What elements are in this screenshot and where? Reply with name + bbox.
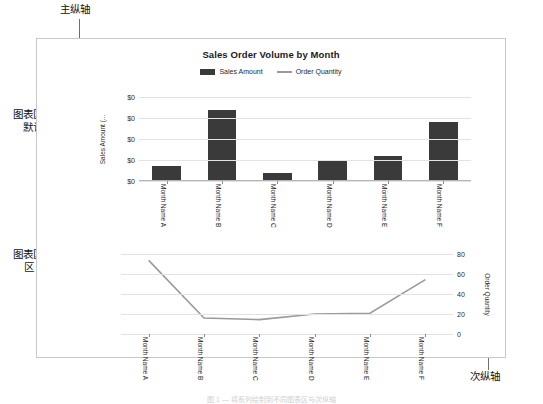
annotation-primary-axis: 主纵轴 bbox=[60, 3, 90, 16]
bar-gridline bbox=[139, 139, 471, 140]
chart-frame: Sales Order Volume by Month Sales Amount… bbox=[36, 38, 506, 358]
secondary-y-tick-label: 0 bbox=[457, 331, 461, 338]
x-axis-tick-cell: Month Name F bbox=[398, 334, 453, 364]
legend-item-order-quantity: Order Quantity bbox=[277, 68, 342, 75]
order-quantity-line[interactable] bbox=[149, 260, 426, 319]
legend-line-swatch-icon bbox=[277, 71, 292, 73]
primary-y-axis-title: Sales Amount (... bbox=[97, 97, 109, 181]
legend-label-sales-amount: Sales Amount bbox=[219, 68, 262, 75]
x-axis-label: Month Name C bbox=[252, 337, 259, 381]
x-axis-label: Month Name A bbox=[160, 184, 167, 227]
bar-month-name-f[interactable] bbox=[429, 122, 458, 181]
x-axis-label: Month Name C bbox=[270, 184, 277, 228]
annotation-secondary-axis: 次纵轴 bbox=[470, 370, 500, 383]
x-axis-label: Month Name D bbox=[326, 184, 333, 228]
x-axis-tick-cell: Month Name C bbox=[250, 181, 305, 207]
x-axis-tick bbox=[259, 334, 260, 337]
x-axis-label: Month Name F bbox=[418, 337, 425, 380]
bar-gridline bbox=[139, 118, 471, 119]
figure-caption: 图 1 — 将系列绘制到不同图表区与次纵轴 bbox=[0, 394, 543, 404]
x-axis-label: Month Name B bbox=[197, 337, 204, 380]
primary-y-tick-label: $0 bbox=[127, 94, 135, 101]
bar-month-name-d[interactable] bbox=[318, 161, 347, 181]
line-gridline bbox=[121, 274, 453, 275]
bar-month-name-b[interactable] bbox=[208, 110, 237, 181]
legend-bar-swatch-icon bbox=[200, 69, 215, 75]
x-axis-label: Month Name E bbox=[363, 337, 370, 380]
primary-y-tick-label: $0 bbox=[127, 157, 135, 164]
x-axis-tick bbox=[443, 181, 444, 184]
legend-label-order-quantity: Order Quantity bbox=[296, 68, 342, 75]
line-gridline bbox=[121, 314, 453, 315]
bar-x-axis-labels: Month Name AMonth Name BMonth Name CMont… bbox=[139, 181, 471, 207]
bar-plot-area: $0$0$0$0$0 bbox=[139, 97, 471, 181]
x-axis-tick-cell: Month Name E bbox=[342, 334, 397, 364]
line-gridline bbox=[121, 294, 453, 295]
x-axis-tick-cell: Month Name A bbox=[121, 334, 176, 364]
secondary-y-tick-label: 20 bbox=[457, 311, 465, 318]
x-axis-tick-cell: Month Name B bbox=[176, 334, 231, 364]
x-axis-label: Month Name D bbox=[308, 337, 315, 381]
x-axis-label: Month Name B bbox=[215, 184, 222, 227]
bar-gridline bbox=[139, 160, 471, 161]
x-axis-label: Month Name E bbox=[381, 184, 388, 227]
x-axis-label: Month Name A bbox=[142, 337, 149, 380]
bar-month-name-a[interactable] bbox=[152, 166, 181, 181]
x-axis-tick-cell: Month Name D bbox=[305, 181, 360, 207]
x-axis-tick bbox=[425, 334, 426, 337]
x-axis-tick-cell: Month Name F bbox=[416, 181, 471, 207]
x-axis-tick bbox=[204, 334, 205, 337]
primary-y-tick-label: $0 bbox=[127, 115, 135, 122]
secondary-y-tick-label: 60 bbox=[457, 271, 465, 278]
x-axis-tick-cell: Month Name E bbox=[360, 181, 415, 207]
x-axis-tick-cell: Month Name C bbox=[232, 334, 287, 364]
chart-area-default: Sales Amount (... $0$0$0$0$0 Month Name … bbox=[99, 97, 489, 207]
x-axis-tick-cell: Month Name A bbox=[139, 181, 194, 207]
line-gridline bbox=[121, 254, 453, 255]
x-axis-tick bbox=[370, 334, 371, 337]
primary-y-tick-label: $0 bbox=[127, 136, 135, 143]
secondary-y-tick-label: 80 bbox=[457, 251, 465, 258]
line-x-axis-labels: Month Name AMonth Name BMonth Name CMont… bbox=[121, 334, 453, 364]
x-axis-tick bbox=[222, 181, 223, 184]
legend-item-sales-amount: Sales Amount bbox=[200, 68, 262, 75]
x-axis-label: Month Name F bbox=[436, 184, 443, 227]
chart-legend: Sales Amount Order Quantity bbox=[37, 68, 505, 75]
x-axis-tick bbox=[388, 181, 389, 184]
primary-y-tick-label: $0 bbox=[127, 178, 135, 185]
chart-title: Sales Order Volume by Month bbox=[37, 49, 505, 60]
secondary-y-tick-label: 40 bbox=[457, 291, 465, 298]
secondary-y-axis-title: Order Quantity bbox=[481, 254, 493, 334]
x-axis-tick bbox=[277, 181, 278, 184]
x-axis-tick-cell: Month Name D bbox=[287, 334, 342, 364]
x-axis-tick-cell: Month Name B bbox=[194, 181, 249, 207]
bar-gridline bbox=[139, 97, 471, 98]
chart-area-1: 020406080 Order Quantity Month Name AMon… bbox=[99, 254, 489, 364]
line-plot-area: 020406080 bbox=[121, 254, 453, 334]
